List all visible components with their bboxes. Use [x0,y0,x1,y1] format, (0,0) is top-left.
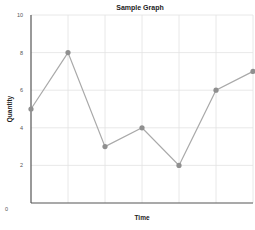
y-tick-label: 6 [20,87,23,93]
data-point-marker [213,88,218,93]
y-tick-label: 0 [5,206,8,212]
data-point-marker [250,69,255,74]
x-axis-label: Time [134,214,149,221]
chart-title: Sample Graph [116,4,163,12]
y-tick-label: 10 [17,12,23,18]
y-tick-label: 8 [20,50,23,56]
grid-lines [31,15,253,203]
y-tick-label: 4 [20,125,23,131]
data-point-marker [139,125,144,130]
data-point-marker [28,106,33,111]
y-axis-label: Quantity [6,95,14,122]
data-point-marker [176,163,181,168]
line-chart: Sample Graph 0246810 Quantity Time [0,0,255,230]
data-point-marker [102,144,107,149]
data-point-marker [65,50,70,55]
y-tick-label: 2 [20,162,23,168]
